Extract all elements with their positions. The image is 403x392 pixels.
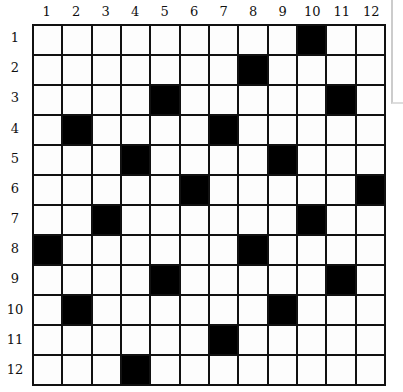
white-cell[interactable]	[181, 146, 208, 174]
white-cell[interactable]	[298, 326, 325, 354]
white-cell[interactable]	[269, 56, 296, 84]
white-cell[interactable]	[298, 296, 325, 324]
white-cell[interactable]	[239, 326, 266, 354]
white-cell[interactable]	[181, 116, 208, 144]
white-cell[interactable]	[181, 26, 208, 54]
white-cell[interactable]	[181, 56, 208, 84]
white-cell[interactable]	[357, 236, 384, 264]
white-cell[interactable]	[327, 326, 354, 354]
white-cell[interactable]	[210, 176, 237, 204]
white-cell[interactable]	[269, 116, 296, 144]
white-cell[interactable]	[34, 266, 61, 294]
white-cell[interactable]	[63, 176, 90, 204]
white-cell[interactable]	[122, 266, 149, 294]
white-cell[interactable]	[151, 176, 178, 204]
white-cell[interactable]	[122, 296, 149, 324]
white-cell[interactable]	[181, 326, 208, 354]
white-cell[interactable]	[63, 266, 90, 294]
white-cell[interactable]	[210, 356, 237, 384]
white-cell[interactable]	[181, 236, 208, 264]
white-cell[interactable]	[239, 266, 266, 294]
white-cell[interactable]	[327, 26, 354, 54]
white-cell[interactable]	[151, 56, 178, 84]
white-cell[interactable]	[122, 236, 149, 264]
white-cell[interactable]	[34, 326, 61, 354]
white-cell[interactable]	[210, 236, 237, 264]
white-cell[interactable]	[239, 86, 266, 114]
white-cell[interactable]	[269, 86, 296, 114]
white-cell[interactable]	[34, 206, 61, 234]
white-cell[interactable]	[210, 296, 237, 324]
white-cell[interactable]	[93, 86, 120, 114]
white-cell[interactable]	[357, 116, 384, 144]
white-cell[interactable]	[93, 26, 120, 54]
white-cell[interactable]	[93, 356, 120, 384]
white-cell[interactable]	[327, 176, 354, 204]
white-cell[interactable]	[327, 296, 354, 324]
white-cell[interactable]	[327, 206, 354, 234]
white-cell[interactable]	[357, 206, 384, 234]
white-cell[interactable]	[327, 116, 354, 144]
white-cell[interactable]	[63, 146, 90, 174]
white-cell[interactable]	[239, 116, 266, 144]
white-cell[interactable]	[327, 356, 354, 384]
white-cell[interactable]	[210, 26, 237, 54]
white-cell[interactable]	[210, 146, 237, 174]
white-cell[interactable]	[63, 206, 90, 234]
white-cell[interactable]	[93, 296, 120, 324]
white-cell[interactable]	[239, 176, 266, 204]
white-cell[interactable]	[151, 326, 178, 354]
white-cell[interactable]	[357, 326, 384, 354]
white-cell[interactable]	[269, 266, 296, 294]
white-cell[interactable]	[298, 86, 325, 114]
white-cell[interactable]	[210, 206, 237, 234]
white-cell[interactable]	[151, 356, 178, 384]
white-cell[interactable]	[239, 206, 266, 234]
white-cell[interactable]	[239, 296, 266, 324]
white-cell[interactable]	[181, 356, 208, 384]
white-cell[interactable]	[63, 56, 90, 84]
white-cell[interactable]	[357, 356, 384, 384]
white-cell[interactable]	[269, 176, 296, 204]
white-cell[interactable]	[298, 266, 325, 294]
white-cell[interactable]	[63, 236, 90, 264]
white-cell[interactable]	[357, 266, 384, 294]
white-cell[interactable]	[269, 206, 296, 234]
white-cell[interactable]	[357, 146, 384, 174]
white-cell[interactable]	[122, 326, 149, 354]
white-cell[interactable]	[63, 26, 90, 54]
white-cell[interactable]	[93, 326, 120, 354]
white-cell[interactable]	[34, 116, 61, 144]
white-cell[interactable]	[181, 296, 208, 324]
white-cell[interactable]	[239, 146, 266, 174]
white-cell[interactable]	[122, 116, 149, 144]
white-cell[interactable]	[298, 236, 325, 264]
white-cell[interactable]	[34, 56, 61, 84]
white-cell[interactable]	[63, 326, 90, 354]
white-cell[interactable]	[93, 146, 120, 174]
white-cell[interactable]	[63, 356, 90, 384]
white-cell[interactable]	[34, 26, 61, 54]
white-cell[interactable]	[93, 56, 120, 84]
white-cell[interactable]	[122, 26, 149, 54]
white-cell[interactable]	[210, 56, 237, 84]
white-cell[interactable]	[327, 146, 354, 174]
white-cell[interactable]	[151, 296, 178, 324]
white-cell[interactable]	[298, 116, 325, 144]
white-cell[interactable]	[269, 326, 296, 354]
white-cell[interactable]	[34, 296, 61, 324]
white-cell[interactable]	[34, 146, 61, 174]
white-cell[interactable]	[93, 236, 120, 264]
white-cell[interactable]	[210, 86, 237, 114]
white-cell[interactable]	[181, 206, 208, 234]
white-cell[interactable]	[357, 26, 384, 54]
white-cell[interactable]	[357, 296, 384, 324]
white-cell[interactable]	[327, 56, 354, 84]
white-cell[interactable]	[298, 146, 325, 174]
white-cell[interactable]	[298, 356, 325, 384]
white-cell[interactable]	[239, 356, 266, 384]
white-cell[interactable]	[239, 26, 266, 54]
white-cell[interactable]	[34, 356, 61, 384]
white-cell[interactable]	[151, 236, 178, 264]
white-cell[interactable]	[34, 176, 61, 204]
